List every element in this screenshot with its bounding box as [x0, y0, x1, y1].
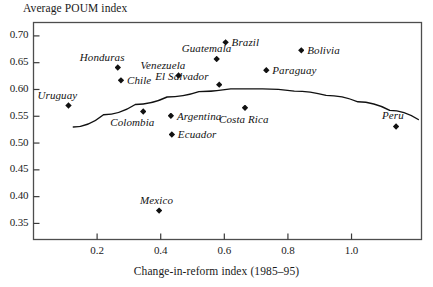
scatter-point-label: Paraguay	[272, 64, 316, 76]
y-tick-label: 0.50	[1, 136, 29, 148]
x-tick-label: 0.6	[209, 244, 239, 256]
x-tick-label: 0.2	[82, 244, 112, 256]
scatter-point-label: Bolivia	[307, 44, 339, 56]
y-tick-label: 0.55	[1, 109, 29, 121]
x-tick-label: 0.8	[273, 244, 303, 256]
scatter-point-label: Peru	[382, 109, 404, 121]
chart-figure: Average POUM index 0.350.400.450.500.550…	[0, 0, 433, 287]
x-tick-label: 1.0	[337, 244, 367, 256]
scatter-point-label: Costa Rica	[219, 113, 269, 125]
scatter-point-label: Argentina	[177, 110, 222, 122]
scatter-point-label: Chile	[127, 74, 151, 86]
y-tick-label: 0.40	[1, 189, 29, 201]
scatter-point-label: Honduras	[80, 51, 125, 63]
scatter-point-label: Mexico	[140, 194, 173, 206]
y-tick-marks	[34, 36, 40, 224]
scatter-point-label: Ecuador	[178, 128, 217, 140]
x-tick-label: 0.4	[146, 244, 176, 256]
y-tick-label: 0.65	[1, 55, 29, 67]
y-tick-label: 0.35	[1, 216, 29, 228]
y-tick-label: 0.60	[1, 82, 29, 94]
scatter-point-label: Colombia	[110, 116, 154, 128]
scatter-point-label: Brazil	[232, 36, 260, 48]
y-tick-label: 0.45	[1, 162, 29, 174]
scatter-point-label: Uruguay	[37, 89, 77, 101]
scatter-point-label: El Salvador	[155, 70, 208, 82]
x-axis-title: Change-in-reform index (1985–95)	[134, 265, 299, 277]
y-tick-label: 0.70	[1, 28, 29, 40]
x-tick-marks	[97, 234, 351, 240]
